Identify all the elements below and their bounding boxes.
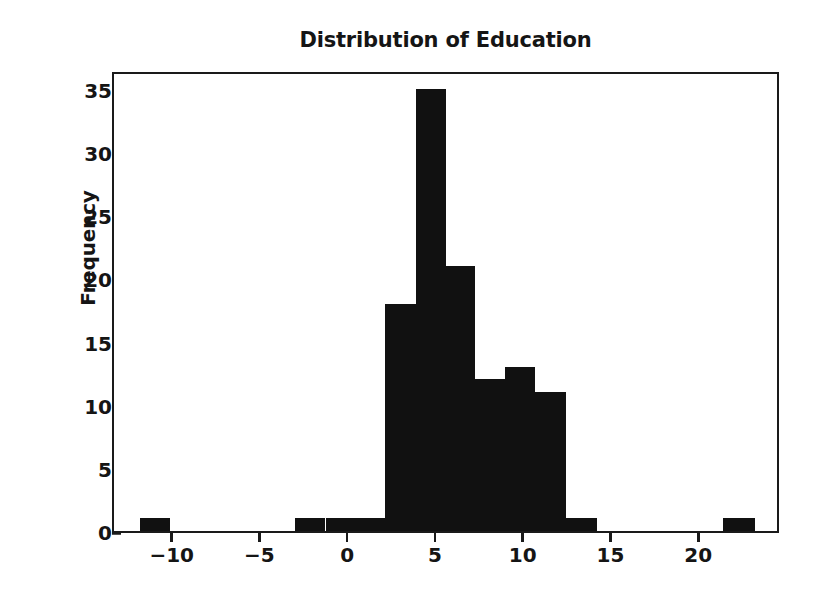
- x-axis-tick-label: 5: [400, 545, 470, 565]
- x-axis-tick-label: −5: [224, 545, 294, 565]
- y-axis-tick-label: 5: [66, 460, 112, 480]
- histogram-bar: [356, 518, 385, 531]
- y-axis-tick-label: 20: [66, 270, 112, 290]
- histogram-bar: [475, 379, 506, 531]
- histogram-bar: [140, 518, 170, 531]
- y-axis-tick-label: 35: [66, 81, 112, 101]
- histogram-bar: [416, 89, 446, 531]
- histogram-bar: [505, 367, 535, 531]
- histogram-bar: [385, 304, 416, 531]
- x-axis-tick-label: 20: [663, 545, 733, 565]
- x-axis-tick-mark: [346, 533, 349, 542]
- x-axis-tick-labels: −10−505101520: [0, 545, 818, 575]
- x-axis-tick-mark: [434, 533, 437, 542]
- histogram-figure: Distribution of Education Frequency 0510…: [0, 0, 818, 589]
- x-axis-tick-mark: [170, 533, 173, 542]
- y-axis-tick-labels: 05101520253035: [52, 0, 112, 589]
- chart-title: Distribution of Education: [112, 28, 779, 52]
- histogram-bar: [535, 392, 566, 531]
- plot-area: [112, 72, 779, 533]
- histogram-bar: [566, 518, 597, 531]
- x-axis-tick-mark: [521, 533, 524, 542]
- x-axis-tick-label: −10: [137, 545, 207, 565]
- histogram-bar: [295, 518, 326, 531]
- x-axis-tick-mark: [258, 533, 261, 542]
- x-axis-tick-mark: [609, 533, 612, 542]
- y-axis-tick-label: 10: [66, 397, 112, 417]
- y-axis-tick-label: 25: [66, 207, 112, 227]
- histogram-bar: [723, 518, 755, 531]
- histogram-bar: [326, 518, 357, 531]
- x-axis-tick-label: 10: [488, 545, 558, 565]
- y-axis-tick-label: 15: [66, 334, 112, 354]
- x-axis-tick-label: 0: [312, 545, 382, 565]
- x-axis-tick-label: 15: [575, 545, 645, 565]
- histogram-bar: [446, 266, 475, 531]
- x-axis-tick-mark: [697, 533, 700, 542]
- y-axis-tick-label: 30: [66, 144, 112, 164]
